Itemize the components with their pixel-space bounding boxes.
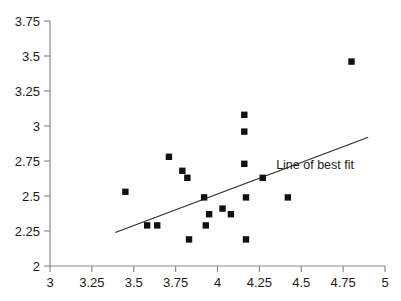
data-point-marker [154,222,160,228]
y-tick-label: 2 [33,259,40,274]
y-tick-label: 3.25 [15,84,40,99]
data-points-group [122,58,355,242]
data-point-marker [206,211,212,217]
data-point-marker [219,205,225,211]
data-point-marker [243,194,249,200]
axis-lines [50,21,385,266]
y-tick-label: 3.5 [22,49,40,64]
axes-group [44,21,385,272]
x-tick-label: 3.5 [125,275,143,290]
data-point-marker [241,128,247,134]
data-point-marker [260,175,266,181]
line-of-best-fit [115,137,368,232]
scatter-plot-figure: 22.252.52.7533.253.53.75 33.253.53.7544.… [0,0,401,301]
data-point-marker [241,112,247,118]
data-point-marker [184,175,190,181]
data-point-marker [166,154,172,160]
x-tick-label: 3.75 [163,275,188,290]
x-tick-label: 4.25 [247,275,272,290]
x-tick-label: 4.75 [330,275,355,290]
chart-canvas: 22.252.52.7533.253.53.75 33.253.53.7544.… [0,0,401,301]
line-of-best-fit-label: Line of best fit [276,158,354,172]
data-point-marker [179,168,185,174]
data-point-marker [122,189,128,195]
x-tick-label: 3 [46,275,53,290]
data-point-marker [186,236,192,242]
y-axis-ticks [44,21,50,266]
x-tick-label: 3.25 [79,275,104,290]
x-axis-tick-labels: 33.253.53.7544.254.54.755 [46,275,388,290]
y-tick-label: 3.75 [15,14,40,29]
data-point-marker [348,58,354,64]
data-point-marker [285,194,291,200]
y-tick-label: 2.75 [15,154,40,169]
data-point-marker [203,222,209,228]
data-point-marker [144,222,150,228]
x-tick-label: 4.5 [292,275,310,290]
trend-line-segment [115,137,368,232]
x-tick-label: 5 [381,275,388,290]
y-tick-label: 2.5 [22,189,40,204]
data-point-marker [243,236,249,242]
data-point-marker [201,194,207,200]
annotations-group: Line of best fit [276,158,354,172]
y-axis-tick-labels: 22.252.52.7533.253.53.75 [15,14,40,274]
data-point-marker [228,211,234,217]
x-tick-label: 4 [214,275,221,290]
y-tick-label: 3 [33,119,40,134]
data-point-marker [241,161,247,167]
y-tick-label: 2.25 [15,224,40,239]
x-axis-ticks [50,266,385,272]
